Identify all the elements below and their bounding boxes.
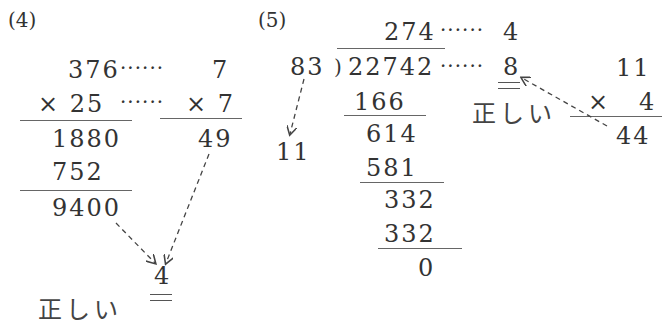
dashed-arrows [0,0,665,326]
